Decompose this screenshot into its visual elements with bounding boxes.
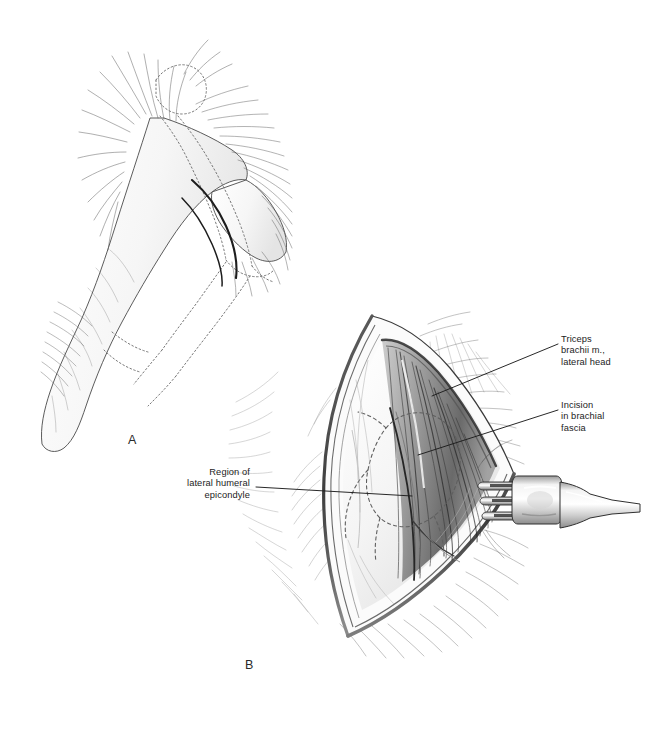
- illustration-artwork: [0, 0, 656, 734]
- triceps-brachii-lateral-head: [382, 340, 496, 582]
- callout-incision-brachial-fascia: Incision in brachial fascia: [561, 400, 604, 434]
- limb-silhouette: [41, 118, 286, 451]
- figure-container: Triceps brachii m., lateral head Incisio…: [0, 0, 656, 734]
- callout-triceps-brachii: Triceps brachii m., lateral head: [561, 334, 611, 368]
- panel-letter-b: B: [245, 658, 254, 672]
- panel-a-forelimb: [41, 40, 292, 451]
- callout-lateral-humeral-epicondyle: Region of lateral humeral epicondyle: [150, 467, 250, 501]
- panel-letter-a: A: [128, 433, 137, 447]
- surgical-retractor: [478, 476, 640, 528]
- retractor-handle: [560, 482, 640, 528]
